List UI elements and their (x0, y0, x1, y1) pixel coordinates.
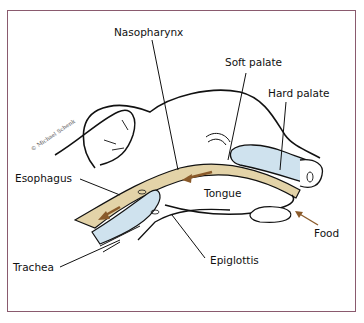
label-epiglottis: Epiglottis (210, 255, 259, 266)
label-trachea: Trachea (13, 262, 54, 273)
label-hard-palate: Hard palate (268, 88, 330, 99)
leader-epiglottis (172, 215, 205, 258)
snout-tip (300, 160, 323, 188)
leader-trachea (60, 240, 120, 267)
label-nasopharynx: Nasopharynx (114, 27, 183, 38)
lower-lip (250, 207, 291, 223)
label-esophagus: Esophagus (15, 173, 72, 184)
eye-outline (206, 133, 230, 145)
dog-head-illustration (0, 0, 364, 323)
label-food: Food (314, 228, 339, 239)
label-tongue: Tongue (204, 188, 242, 199)
leader-esophagus (80, 179, 120, 195)
ear-outline (55, 110, 135, 165)
leader-nasopharynx (152, 40, 178, 170)
label-soft-palate: Soft palate (225, 57, 282, 68)
